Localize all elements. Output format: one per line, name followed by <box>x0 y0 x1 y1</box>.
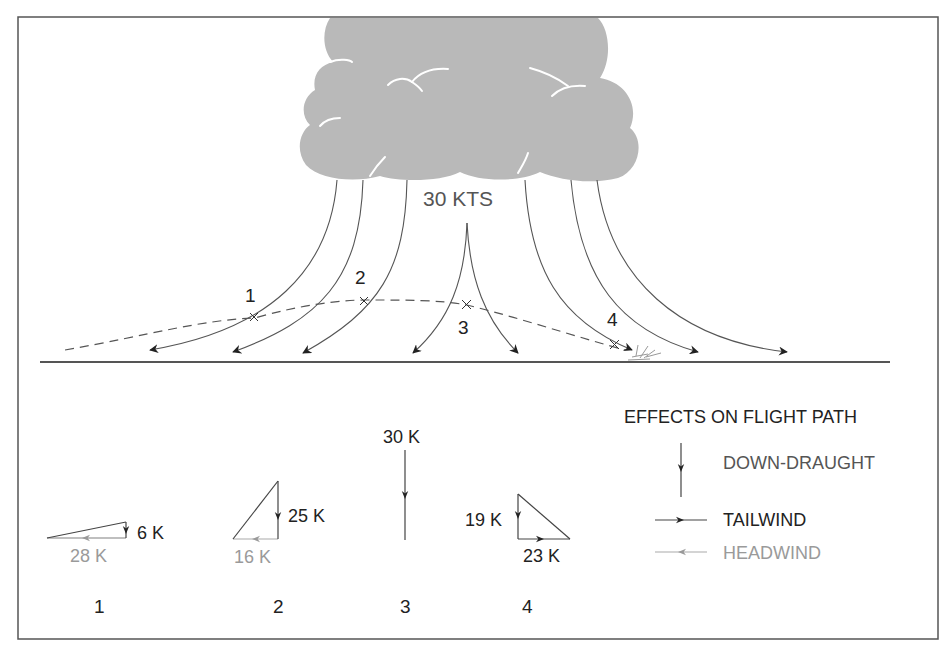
legend-downdraught-label: DOWN-DRAUGHT <box>723 454 875 472</box>
vd1-caption: 1 <box>94 597 105 616</box>
vector-diagram-2 <box>233 481 278 539</box>
point-label-1: 1 <box>245 286 256 305</box>
vd4-caption: 4 <box>522 597 533 616</box>
legend-title: EFFECTS ON FLIGHT PATH <box>624 408 857 426</box>
vector-diagram-1 <box>47 522 126 538</box>
vd2-caption: 2 <box>273 597 284 616</box>
vd1-downdraught-value: 6 K <box>137 524 164 542</box>
vd1-headwind-value: 28 K <box>70 547 107 565</box>
impact-burst <box>628 345 661 360</box>
legend-headwind-label: HEADWIND <box>723 544 821 562</box>
point-label-3: 3 <box>458 318 469 337</box>
vd4-downdraught-value: 19 K <box>465 511 502 529</box>
vd2-headwind-value: 16 K <box>234 548 271 566</box>
vector-diagram-4 <box>518 494 570 539</box>
cloud-speed-label: 30 KTS <box>423 188 493 209</box>
flight-path <box>65 300 625 350</box>
vd2-downdraught-value: 25 K <box>288 507 325 525</box>
point-label-2: 2 <box>355 268 366 287</box>
vd4-tailwind-value: 23 K <box>523 547 560 565</box>
point-label-4: 4 <box>607 310 618 329</box>
storm-cloud <box>300 18 639 181</box>
point-markers <box>250 297 619 349</box>
vd3-caption: 3 <box>400 597 411 616</box>
vd3-downdraught-value: 30 K <box>383 428 420 446</box>
legend-tailwind-label: TAILWIND <box>723 511 806 529</box>
